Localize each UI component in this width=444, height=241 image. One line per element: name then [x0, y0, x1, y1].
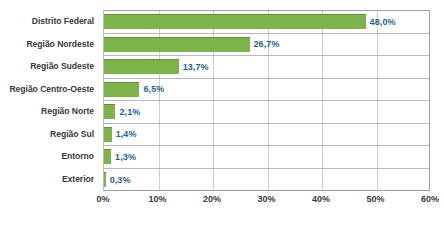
bar: [104, 82, 139, 97]
category-label: Região Sul: [0, 123, 99, 146]
category-label: Distrito Federal: [0, 10, 99, 33]
bar-value-label: 1,3%: [115, 152, 136, 162]
x-tick-label: 10%: [148, 194, 166, 204]
x-axis-ticks: 0%10%20%30%40%50%60%: [0, 194, 444, 208]
bar-value-label: 2,1%: [119, 107, 140, 117]
category-label: Região Centro-Oeste: [0, 78, 99, 101]
x-tick-label: 60%: [421, 194, 439, 204]
bar: [104, 37, 250, 52]
bar-value-label: 48,0%: [370, 17, 396, 27]
bar: [104, 104, 115, 119]
bar-row: 1,3%: [104, 146, 429, 169]
bar-value-label: 1,4%: [116, 129, 137, 139]
bar-value-label: 26,7%: [254, 39, 280, 49]
x-tick-label: 40%: [312, 194, 330, 204]
bar: [104, 14, 366, 29]
category-label: Exterior: [0, 168, 99, 191]
x-tick-label: 0%: [96, 194, 109, 204]
bar-row: 6,5%: [104, 79, 429, 102]
bar: [104, 149, 111, 164]
bar-value-label: 0,3%: [110, 175, 131, 185]
category-label: Região Norte: [0, 100, 99, 123]
bar-row: 26,7%: [104, 34, 429, 57]
x-tick-label: 30%: [257, 194, 275, 204]
category-label: Região Nordeste: [0, 33, 99, 56]
x-tick-label: 20%: [203, 194, 221, 204]
bar: [104, 59, 179, 74]
category-label: Região Sudeste: [0, 55, 99, 78]
bar-row: 48,0%: [104, 11, 429, 34]
bar: [104, 172, 106, 187]
bar-rows: 48,0%26,7%13,7%6,5%2,1%1,4%1,3%0,3%: [104, 11, 429, 190]
plot-area: 48,0%26,7%13,7%6,5%2,1%1,4%1,3%0,3%: [103, 10, 430, 191]
category-axis: Distrito FederalRegião NordesteRegião Su…: [0, 10, 99, 191]
bar-row: 2,1%: [104, 101, 429, 124]
bar-row: 1,4%: [104, 124, 429, 147]
bar-value-label: 6,5%: [143, 84, 164, 94]
category-label: Entorno: [0, 145, 99, 168]
x-tick-label: 50%: [366, 194, 384, 204]
bar: [104, 127, 112, 142]
bar-chart: Distrito FederalRegião NordesteRegião Su…: [0, 0, 444, 241]
bar-row: 0,3%: [104, 169, 429, 192]
bar-value-label: 13,7%: [183, 62, 209, 72]
bar-row: 13,7%: [104, 56, 429, 79]
